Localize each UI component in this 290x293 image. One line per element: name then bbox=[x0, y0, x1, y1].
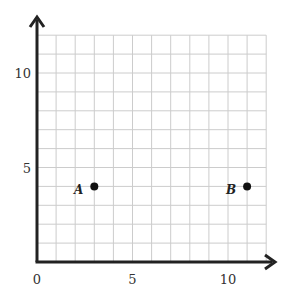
grid-lines bbox=[37, 35, 266, 262]
coordinate-plane: 0510510 AB bbox=[0, 0, 290, 293]
point-label-b: B bbox=[225, 183, 236, 197]
point-b bbox=[243, 182, 251, 190]
x-tick-label: 0 bbox=[33, 272, 41, 287]
x-tick-label: 10 bbox=[220, 272, 237, 287]
point-label-a: A bbox=[73, 183, 83, 197]
axes bbox=[30, 17, 275, 269]
point-a bbox=[90, 182, 98, 190]
data-points: AB bbox=[73, 182, 251, 197]
x-tick-label: 5 bbox=[128, 272, 136, 287]
y-tick-label: 5 bbox=[23, 161, 31, 176]
y-tick-label: 10 bbox=[14, 66, 31, 81]
tick-labels: 0510510 bbox=[14, 66, 236, 287]
